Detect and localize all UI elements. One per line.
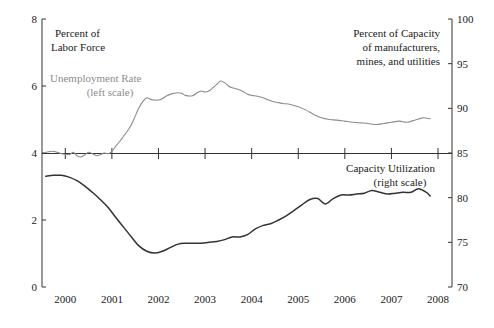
left-tick-label: 2 [32,214,38,226]
unemployment-series-label-line1: Unemployment Rate [50,72,141,84]
right-tick-label: 95 [457,58,469,70]
left-tick-label: 4 [32,147,38,159]
right-tick-label: 85 [457,147,469,159]
chart-canvas: 86420 100959085807570 200020012002200320… [0,0,494,328]
x-tick-label: 2004 [241,293,264,305]
unemployment-series-label-line2: (left scale) [87,86,134,99]
x-tick-label: 2005 [287,293,310,305]
right-tick-label: 90 [457,102,469,114]
economic-indicators-chart: 86420 100959085807570 200020012002200320… [0,0,494,328]
right-tick-label: 75 [457,236,469,248]
capacity-series-label-line1: Capacity Utilization [346,162,435,174]
x-tick-label: 2007 [380,293,403,305]
left-tick-label: 8 [32,13,38,25]
right-tick-label: 80 [457,192,469,204]
right-tick-label: 100 [457,13,474,25]
capacity-series-label-line2: (right scale) [374,176,427,189]
right-scale-title-line2: of manufacturers, [362,41,440,53]
x-tick-label: 2006 [334,293,357,305]
series-line-capacity-utilization [46,175,430,253]
x-tick-label: 2008 [427,293,450,305]
left-scale-title-line2: Labor Force [51,41,105,53]
left-tick-label: 6 [32,80,38,92]
x-tick-label: 2001 [101,293,123,305]
right-scale-title-line1: Percent of Capacity [353,27,440,39]
x-tick-label: 2003 [194,293,217,305]
left-tick-label: 0 [32,281,38,293]
right-tick-label: 70 [457,281,469,293]
left-axis-ticks: 86420 [32,13,47,293]
left-scale-title-line1: Percent of [55,27,100,39]
right-scale-title-line3: mines, and utilities [357,55,440,67]
x-tick-label: 2000 [54,293,77,305]
x-tick-label: 2002 [147,293,169,305]
